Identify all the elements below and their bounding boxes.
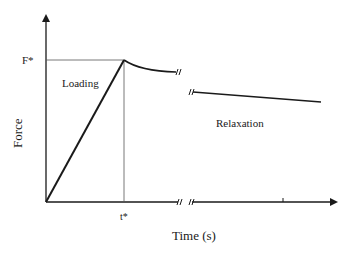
x-axis-label: Time (s) <box>172 228 216 243</box>
x-axis-break-icon <box>177 199 194 205</box>
peak-time-label: t* <box>120 211 128 222</box>
loading-label: Loading <box>62 77 99 89</box>
peak-force-label: F* <box>22 54 34 66</box>
y-axis-label: Force <box>10 118 25 148</box>
force-time-diagram: F* Loading Relaxation t* Time (s) Force <box>0 0 347 258</box>
curve-break-icon <box>176 69 194 95</box>
relaxation-label: Relaxation <box>216 117 264 129</box>
relaxation-curve-early <box>124 60 176 72</box>
relaxation-curve-late <box>193 92 321 102</box>
